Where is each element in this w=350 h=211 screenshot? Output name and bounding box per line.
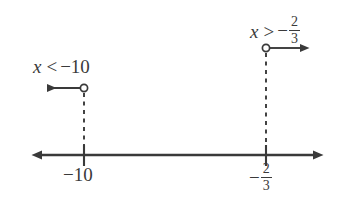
inequality-label-left: x < −10 [33,57,90,76]
fraction-numerator-tick: 2 [261,162,272,176]
negative-sign-right: − [277,21,289,40]
fraction-two-thirds-tick: 2 3 [261,162,272,193]
fraction-denominator: 3 [289,32,300,46]
variable-x-left: x [33,57,43,76]
boundary-value-minus-10: −10 [60,57,90,76]
fraction-two-thirds-label: 2 3 [289,15,300,46]
inequality-label-right: x > − 2 3 [250,16,300,47]
fraction-denominator-tick: 3 [261,179,272,193]
operator-less-than: < [43,57,60,76]
open-circle-minus-10 [80,84,87,91]
tick-label-minus-10: −10 [63,165,93,184]
fraction-numerator: 2 [289,15,300,29]
number-line-figure: x < −10 x > − 2 3 −10 − 2 3 [0,0,350,211]
operator-greater-than: > [260,22,277,41]
tick-label-minus-two-thirds: − 2 3 [249,163,272,194]
variable-x-right: x [250,22,260,41]
negative-sign-tick: − [249,168,261,187]
